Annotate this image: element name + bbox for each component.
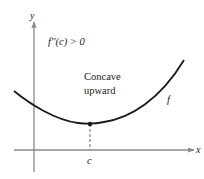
c-label: c: [87, 155, 92, 166]
concavity-diagram: y x f′′(c) > 0 Concave upward f c: [0, 0, 204, 179]
concave-label: Concave: [84, 71, 121, 82]
upward-label: upward: [84, 85, 116, 96]
minimum-point: [88, 122, 93, 127]
function-label: f: [167, 94, 172, 105]
condition-label: f′′(c) > 0: [48, 36, 86, 48]
y-axis-label: y: [29, 10, 35, 21]
x-axis-label: x: [195, 144, 201, 155]
